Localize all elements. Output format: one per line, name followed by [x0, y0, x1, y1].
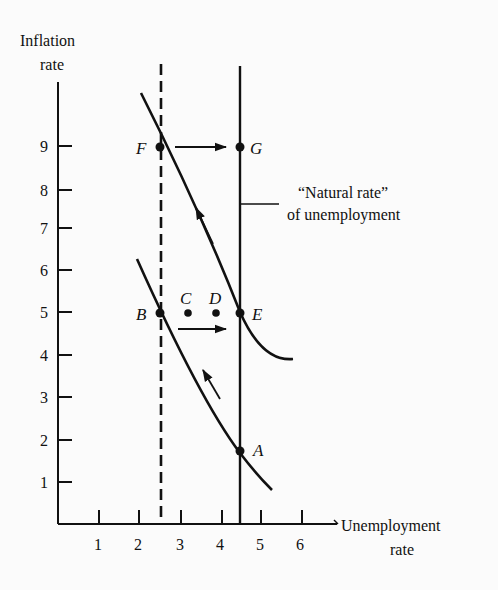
y-ticks — [58, 146, 72, 482]
x-tick-2: 2 — [134, 536, 142, 553]
point-e — [236, 309, 245, 318]
x-tick-6: 6 — [296, 536, 304, 553]
point-d — [212, 309, 220, 317]
point-label-c: C — [180, 289, 192, 308]
x-tick-3: 3 — [176, 536, 184, 553]
y-tick-labels: 1 2 3 4 5 6 7 8 9 — [40, 138, 48, 491]
phillips-curve-chart: Inflation rate 1 2 3 4 5 6 7 8 9 — [0, 0, 498, 590]
point-label-d: D — [208, 289, 222, 308]
y-axis-title-line2: rate — [40, 56, 64, 73]
y-tick-2: 2 — [40, 432, 48, 449]
point-g — [236, 143, 245, 152]
y-tick-4: 4 — [40, 347, 48, 364]
point-label-f: F — [135, 139, 147, 158]
y-tick-7: 7 — [40, 220, 48, 237]
point-label-g: G — [250, 139, 262, 158]
y-axis-title-line1: Inflation — [20, 32, 75, 49]
arrow-up-upper-curve — [196, 208, 213, 244]
x-axis-title-line2: rate — [390, 541, 414, 558]
y-tick-8: 8 — [40, 182, 48, 199]
natural-rate-label-line1: “Natural rate” — [298, 184, 388, 201]
point-label-b: B — [136, 305, 147, 324]
axes — [58, 82, 338, 524]
y-tick-3: 3 — [40, 389, 48, 406]
x-tick-5: 5 — [256, 536, 264, 553]
point-b — [156, 309, 165, 318]
y-tick-1: 1 — [40, 474, 48, 491]
point-label-a: A — [252, 441, 264, 460]
natural-rate-label-line2: of unemployment — [287, 206, 401, 224]
x-tick-1: 1 — [94, 536, 102, 553]
y-tick-6: 6 — [40, 262, 48, 279]
point-a — [236, 447, 245, 456]
point-label-e: E — [251, 305, 263, 324]
lower-phillips-curve — [137, 259, 272, 490]
y-tick-5: 5 — [40, 304, 48, 321]
x-ticks — [99, 510, 302, 524]
x-axis-title-line1: Unemployment — [341, 517, 441, 535]
arrow-up-lower-curve — [203, 370, 220, 399]
point-f — [156, 143, 165, 152]
point-c — [184, 309, 192, 317]
x-tick-labels: 1 2 3 4 5 6 — [94, 536, 304, 553]
x-tick-4: 4 — [216, 536, 224, 553]
data-points — [156, 143, 245, 456]
y-tick-9: 9 — [40, 138, 48, 155]
